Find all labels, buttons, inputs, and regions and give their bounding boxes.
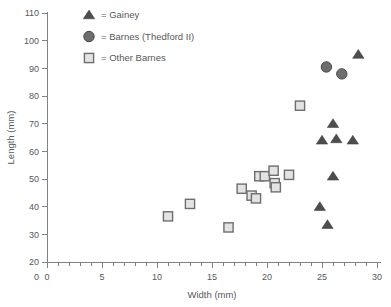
- legend-marker-square: [84, 53, 93, 62]
- y-tick-label: 30: [29, 230, 39, 240]
- data-point-square: [260, 172, 269, 181]
- legend-marker-circle: [84, 31, 94, 41]
- data-point-triangle: [316, 135, 327, 144]
- legend-label: = Barnes (Thedford II): [101, 31, 194, 42]
- legend-marker-triangle: [83, 10, 94, 19]
- y-tick-label: 90: [29, 64, 39, 74]
- data-point-triangle: [327, 171, 338, 180]
- scatter-plot-figure: 20304050607080901001100510152025300 = Ga…: [0, 0, 391, 307]
- data-point-circle: [321, 62, 331, 72]
- series-barnes-thedford-ii: [321, 62, 347, 79]
- data-point-circle: [337, 69, 347, 79]
- y-axis-title: Length (mm): [5, 111, 16, 165]
- x-tick-label: 0: [44, 272, 49, 282]
- data-point-triangle: [314, 202, 325, 211]
- scatter-plot-canvas: 20304050607080901001100510152025300 = Ga…: [0, 0, 391, 307]
- y-tick-label: 20: [29, 257, 39, 267]
- data-point-triangle: [327, 119, 338, 128]
- x-axis-title: Width (mm): [187, 289, 236, 300]
- y-tick-label: 40: [29, 202, 39, 212]
- x-tick-label: 15: [207, 272, 217, 282]
- data-point-square: [269, 166, 278, 175]
- axis-titles: Width (mm)Length (mm): [5, 111, 237, 300]
- data-point-triangle: [322, 220, 333, 229]
- data-point-square: [271, 183, 280, 192]
- data-points: [163, 50, 364, 232]
- axes: 20304050607080901001100510152025300: [24, 8, 382, 282]
- x-tick-label: 10: [152, 272, 162, 282]
- x-tick-label: 20: [262, 272, 272, 282]
- data-point-square: [237, 184, 246, 193]
- y-tick-label: 110: [25, 8, 39, 18]
- x-tick-label: 5: [99, 272, 104, 282]
- data-point-square: [224, 223, 233, 232]
- y-tick-label: 60: [29, 147, 39, 157]
- x-tick-label: 25: [317, 272, 327, 282]
- y-axis-zero-label: 0: [34, 272, 39, 282]
- legend-label: = Other Barnes: [101, 52, 166, 63]
- data-point-triangle: [331, 134, 342, 143]
- data-point-triangle: [353, 50, 364, 59]
- y-tick-label: 80: [29, 91, 39, 101]
- data-point-square: [185, 199, 194, 208]
- data-point-square: [284, 170, 293, 179]
- data-point-square: [163, 212, 172, 221]
- data-point-square: [251, 194, 260, 203]
- legend-label: = Gainey: [101, 9, 140, 20]
- y-tick-label: 100: [24, 36, 39, 46]
- series-other-barnes: [163, 101, 304, 232]
- chart-legend: = Gainey= Barnes (Thedford II)= Other Ba…: [83, 9, 194, 63]
- y-tick-label: 50: [29, 174, 39, 184]
- data-point-triangle: [347, 135, 358, 144]
- x-tick-label: 30: [372, 272, 382, 282]
- data-point-square: [295, 101, 304, 110]
- y-tick-label: 70: [29, 119, 39, 129]
